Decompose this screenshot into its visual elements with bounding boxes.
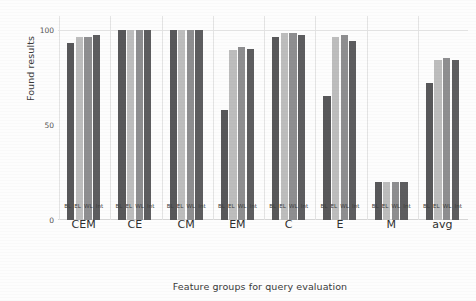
bar — [187, 30, 194, 220]
bar-tick-label: BL — [269, 203, 276, 215]
bar — [76, 37, 83, 220]
bar — [298, 35, 305, 220]
bar-tick-label: WL — [187, 203, 196, 215]
bar-tick-label: EL — [74, 203, 81, 215]
bar-tick-label: WL — [443, 203, 452, 215]
bar — [341, 35, 348, 220]
bar — [229, 50, 236, 220]
bar — [136, 30, 143, 220]
bar-tick-label: EL — [330, 203, 337, 215]
bar-tick-label: WL — [392, 203, 401, 215]
bar-tick-label: EL — [382, 203, 389, 215]
bar-tick-label: EL — [228, 203, 235, 215]
bar-tick-label: Int — [352, 203, 359, 215]
bar-tick-label: Int — [403, 203, 410, 215]
bar — [93, 35, 100, 220]
bar-tick-label: Int — [250, 203, 257, 215]
bar — [289, 33, 296, 220]
bar — [247, 49, 254, 220]
bar-tick-label-row: BLELWLInt — [423, 203, 462, 215]
gridline-vertical — [418, 16, 419, 220]
x-axis-group-label: avg — [417, 218, 468, 231]
bar-group — [67, 20, 100, 220]
bar-tick-label: BL — [218, 203, 225, 215]
gridline-vertical — [59, 16, 60, 220]
bar-tick-label-row: BLELWLInt — [64, 203, 103, 215]
bar-tick-label: WL — [238, 203, 247, 215]
bar-tick-label: Int — [147, 203, 154, 215]
gridline-vertical — [110, 16, 111, 220]
x-axis-group-label: CE — [109, 218, 160, 231]
bar-tick-label: WL — [340, 203, 349, 215]
bar-tick-label: Int — [96, 203, 103, 215]
y-axis-tick-label: 50 — [44, 120, 54, 129]
bar-tick-label: BL — [115, 203, 122, 215]
gridline-vertical — [315, 16, 316, 220]
bar-tick-label-row: BLELWLInt — [372, 203, 411, 215]
bar — [332, 37, 339, 220]
bar — [195, 30, 202, 220]
bar-tick-label: BL — [372, 203, 379, 215]
bar-tick-label-row: BLELWLInt — [218, 203, 257, 215]
bar-tick-label-row: BLELWLInt — [320, 203, 359, 215]
bar-group — [323, 20, 356, 220]
bar — [67, 43, 74, 220]
bar — [127, 30, 134, 220]
bar-tick-label: EL — [177, 203, 184, 215]
bar — [443, 58, 450, 220]
bar-tick-label: BL — [64, 203, 71, 215]
bar-group — [426, 20, 459, 220]
x-axis-group-label: M — [366, 218, 417, 231]
x-axis-group-label: E — [314, 218, 365, 231]
bar-tick-label: WL — [289, 203, 298, 215]
bar-group — [170, 20, 203, 220]
bar — [238, 47, 245, 220]
gridline-vertical — [264, 16, 265, 220]
gridline-vertical — [213, 16, 214, 220]
x-axis-group-label: CM — [161, 218, 212, 231]
y-axis-title: Found results — [25, 0, 36, 149]
bar-tick-label: Int — [455, 203, 462, 215]
y-axis-tick-label: 0 — [49, 216, 54, 225]
bar-group — [221, 20, 254, 220]
bar — [426, 83, 433, 220]
bar-tick-label: Int — [301, 203, 308, 215]
bar-group — [375, 20, 408, 220]
x-axis-group-label: CEM — [58, 218, 109, 231]
bar-tick-label-row: BLELWLInt — [115, 203, 154, 215]
gridline-vertical — [162, 16, 163, 220]
bar — [452, 60, 459, 220]
bar — [118, 30, 125, 220]
bar-tick-label: EL — [433, 203, 440, 215]
x-axis-title: Feature groups for query evaluation — [60, 281, 460, 292]
plot-area: 050100 — [58, 20, 468, 220]
bar — [349, 41, 356, 220]
bar — [434, 60, 441, 220]
bar — [170, 30, 177, 220]
y-axis-tick-label: 100 — [40, 25, 54, 34]
bar-group — [118, 20, 151, 220]
bar — [178, 30, 185, 220]
bar — [272, 37, 279, 220]
bar-tick-label: WL — [84, 203, 93, 215]
bar — [84, 37, 91, 220]
x-axis-group-label: C — [263, 218, 314, 231]
bar-tick-label: EL — [279, 203, 286, 215]
bar-tick-label-row: BLELWLInt — [167, 203, 206, 215]
bar — [323, 96, 330, 220]
x-axis-group-label: EM — [212, 218, 263, 231]
gridline-vertical — [367, 16, 368, 220]
bar — [144, 30, 151, 220]
bar-tick-label: Int — [198, 203, 205, 215]
bar-chart: Found results 050100 Feature groups for … — [0, 0, 476, 301]
bar-tick-label: BL — [423, 203, 430, 215]
bar-tick-label: EL — [125, 203, 132, 215]
bar-tick-label: BL — [320, 203, 327, 215]
bar-group — [272, 20, 305, 220]
bar-tick-label: WL — [135, 203, 144, 215]
bar-tick-label: BL — [167, 203, 174, 215]
bar — [281, 33, 288, 220]
bar-tick-label-row: BLELWLInt — [269, 203, 308, 215]
